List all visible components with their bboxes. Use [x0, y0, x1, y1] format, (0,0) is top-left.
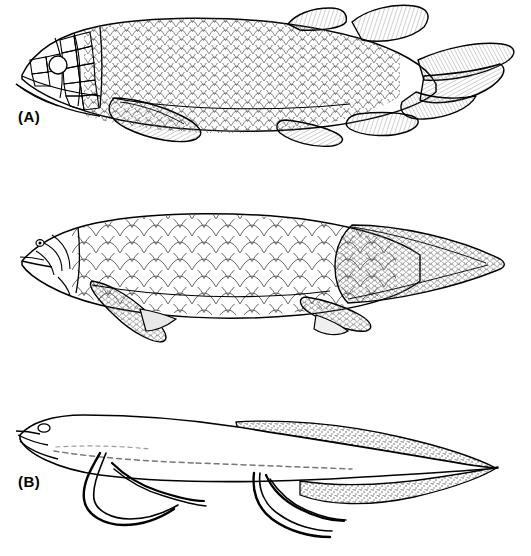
- fish-c-illustration: [0, 375, 531, 556]
- fish-c-eye: [38, 424, 50, 432]
- figure-panel-a: (A): [0, 0, 531, 185]
- fish-b-illustration: [0, 185, 531, 375]
- fish-a-illustration: [0, 0, 531, 185]
- fish-a-anal-fin: [346, 113, 418, 136]
- fish-b-caudal-fin: [335, 225, 504, 303]
- figure-panel-b: (B): [0, 185, 531, 375]
- figure-panel-c: (C): [0, 375, 531, 556]
- figure-root: (A): [0, 0, 531, 556]
- fish-a-dorsal-fin-1: [288, 8, 346, 30]
- panel-label-a: (A): [18, 108, 40, 125]
- fish-a-eye: [49, 56, 67, 74]
- fish-a-dorsal-fin-2: [352, 5, 428, 41]
